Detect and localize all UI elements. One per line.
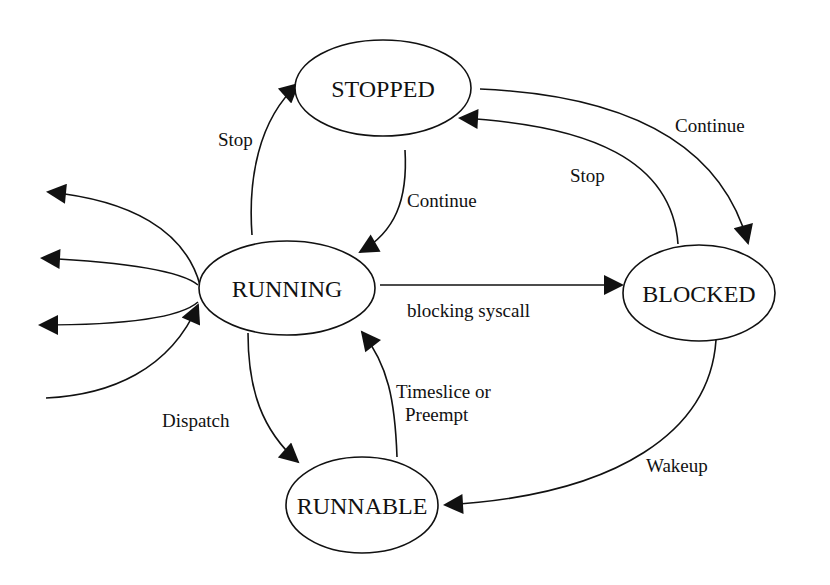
diagram-svg: STOPPED RUNNING BLOCKED RUNNABLE Stop Co…	[0, 0, 830, 585]
state-diagram: STOPPED RUNNING BLOCKED RUNNABLE Stop Co…	[0, 0, 830, 585]
state-running-label: RUNNING	[232, 276, 343, 302]
state-running: RUNNING	[199, 241, 375, 335]
state-blocked: BLOCKED	[623, 245, 775, 341]
state-blocked-label: BLOCKED	[642, 281, 755, 307]
label-blocked-stopped: Stop	[570, 165, 605, 186]
edge-running-runnable	[248, 333, 298, 462]
label-blocked-runnable: Wakeup	[646, 455, 708, 476]
edge-blocked-runnable	[445, 340, 716, 505]
edge-runnable-running	[362, 332, 397, 457]
edge-stopped-blocked	[480, 89, 748, 243]
edge-running-exit-3	[40, 302, 198, 325]
label-running-stopped: Stop	[218, 129, 253, 150]
state-stopped-label: STOPPED	[331, 76, 435, 102]
label-running-blocked: blocking syscall	[407, 300, 530, 321]
edge-blocked-stopped	[460, 118, 678, 244]
edge-running-exit-1	[48, 192, 200, 285]
label-running-runnable: Dispatch	[162, 410, 230, 431]
edge-running-stopped	[251, 84, 298, 235]
edge-stopped-running	[360, 150, 405, 252]
state-runnable: RUNNABLE	[286, 457, 438, 553]
label-runnable-running-line1: Timeslice or	[396, 381, 491, 402]
state-stopped: STOPPED	[295, 40, 471, 136]
edge-running-exit-2	[42, 258, 198, 285]
label-stopped-running: Continue	[407, 190, 477, 211]
state-runnable-label: RUNNABLE	[297, 493, 428, 519]
label-stopped-blocked: Continue	[675, 115, 745, 136]
edge-external-running	[46, 305, 198, 398]
label-runnable-running-line2: Preempt	[405, 404, 469, 425]
